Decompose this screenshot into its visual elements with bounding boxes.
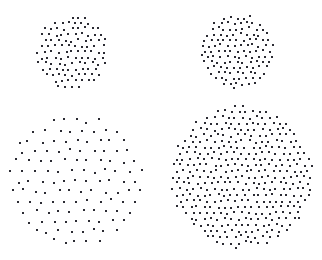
dot-marker bbox=[80, 22, 82, 24]
dot-marker bbox=[202, 45, 204, 47]
dot-marker bbox=[263, 225, 265, 227]
dot-marker bbox=[72, 27, 74, 29]
dot-marker bbox=[227, 199, 229, 201]
dot-marker bbox=[203, 170, 205, 172]
dot-marker bbox=[275, 211, 277, 213]
dot-marker bbox=[264, 158, 266, 160]
dot-marker bbox=[62, 22, 64, 24]
dot-marker bbox=[286, 170, 288, 172]
dot-marker bbox=[85, 180, 87, 182]
dot-marker bbox=[308, 194, 310, 196]
dot-marker bbox=[231, 158, 233, 160]
dot-marker bbox=[283, 188, 285, 190]
dot-marker bbox=[248, 177, 250, 179]
dot-marker bbox=[76, 159, 78, 161]
dot-marker bbox=[63, 201, 65, 203]
dot-marker bbox=[258, 206, 260, 208]
dot-marker bbox=[308, 158, 310, 160]
dot-marker bbox=[237, 158, 239, 160]
dot-marker bbox=[109, 160, 111, 162]
dot-marker bbox=[214, 201, 216, 203]
dot-marker bbox=[255, 164, 257, 166]
dot-marker bbox=[241, 84, 243, 86]
dot-marker bbox=[55, 81, 57, 83]
dot-marker bbox=[221, 225, 223, 227]
dot-marker bbox=[229, 72, 231, 74]
dot-marker bbox=[90, 189, 92, 191]
dot-marker bbox=[104, 62, 106, 64]
dot-marker bbox=[297, 211, 299, 213]
dot-marker bbox=[300, 195, 302, 197]
dot-marker bbox=[256, 29, 258, 31]
dot-marker bbox=[257, 46, 259, 48]
dot-marker bbox=[103, 150, 105, 152]
dot-marker bbox=[126, 149, 128, 151]
dot-marker bbox=[199, 212, 201, 214]
dot-marker bbox=[79, 61, 81, 63]
dot-marker bbox=[103, 44, 105, 46]
dot-marker bbox=[269, 213, 271, 215]
dot-marker bbox=[281, 225, 283, 227]
dot-marker bbox=[238, 219, 240, 221]
dot-marker bbox=[220, 34, 222, 36]
dot-marker bbox=[190, 135, 192, 137]
dot-marker bbox=[42, 181, 44, 183]
dot-marker bbox=[213, 151, 215, 153]
dot-marker bbox=[226, 35, 228, 37]
dot-marker bbox=[47, 170, 49, 172]
dot-marker bbox=[209, 206, 211, 208]
dot-marker bbox=[223, 18, 225, 20]
dot-marker bbox=[186, 189, 188, 191]
dot-marker bbox=[261, 151, 263, 153]
dot-marker bbox=[86, 46, 88, 48]
dot-marker bbox=[77, 50, 79, 52]
dot-marker bbox=[98, 221, 100, 223]
dot-marker bbox=[285, 182, 287, 184]
dot-marker bbox=[123, 181, 125, 183]
dot-marker bbox=[223, 145, 225, 147]
dot-marker bbox=[189, 171, 191, 173]
dot-marker bbox=[267, 141, 269, 143]
dot-marker bbox=[293, 159, 295, 161]
dot-marker bbox=[54, 44, 56, 46]
dot-marker bbox=[212, 55, 214, 57]
dot-marker bbox=[234, 105, 236, 107]
dot-marker bbox=[280, 181, 282, 183]
dot-marker bbox=[218, 71, 220, 73]
dot-marker bbox=[261, 213, 263, 215]
dot-marker bbox=[178, 177, 180, 179]
dot-marker bbox=[243, 40, 245, 42]
dot-marker bbox=[197, 183, 199, 185]
dot-marker bbox=[67, 79, 69, 81]
dot-marker bbox=[186, 151, 188, 153]
dot-marker bbox=[206, 128, 208, 130]
dot-marker bbox=[195, 146, 197, 148]
dot-marker bbox=[57, 210, 59, 212]
dot-marker bbox=[275, 165, 277, 167]
dot-marker bbox=[229, 29, 231, 31]
dot-marker bbox=[193, 164, 195, 166]
dot-marker bbox=[100, 34, 102, 36]
dot-marker bbox=[283, 177, 285, 179]
dot-marker bbox=[104, 168, 106, 170]
dot-marker bbox=[245, 183, 247, 185]
dot-marker bbox=[229, 181, 231, 183]
dot-marker bbox=[244, 206, 246, 208]
dot-marker bbox=[231, 111, 233, 113]
dot-marker bbox=[280, 194, 282, 196]
dot-marker bbox=[195, 205, 197, 207]
dot-marker bbox=[241, 62, 243, 64]
dot-marker bbox=[304, 165, 306, 167]
dot-marker bbox=[45, 61, 47, 63]
dot-marker bbox=[266, 242, 268, 244]
dot-marker bbox=[81, 32, 83, 34]
dot-marker bbox=[184, 140, 186, 142]
dot-marker bbox=[239, 67, 241, 69]
dot-marker bbox=[229, 50, 231, 52]
dot-marker bbox=[211, 157, 213, 159]
dot-marker bbox=[240, 139, 242, 141]
dot-marker bbox=[189, 158, 191, 160]
dot-marker bbox=[179, 163, 181, 165]
dot-marker bbox=[235, 247, 237, 249]
dot-marker bbox=[94, 150, 96, 152]
